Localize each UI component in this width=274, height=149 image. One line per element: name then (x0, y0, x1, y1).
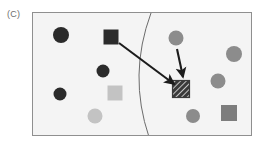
scene-box (32, 12, 252, 136)
gray-circle (226, 46, 242, 62)
figure-panel-c: (C) (0, 0, 274, 149)
shape-group-markers (53, 27, 242, 124)
panel-label: (C) (7, 10, 20, 19)
scene-graphic (33, 13, 252, 136)
dark-circle (54, 88, 67, 101)
gray-square (221, 105, 237, 121)
decision-boundary-curve (139, 13, 151, 136)
dark-circle (97, 65, 110, 78)
arrow-from-dark-square (119, 43, 174, 84)
gray-circle (169, 31, 184, 46)
dark-square (104, 30, 119, 45)
light-gray-square (108, 86, 123, 101)
arrow-from-gray-circle (177, 49, 183, 77)
dark-circle (53, 27, 69, 43)
gray-circle (211, 74, 226, 89)
arrow-group (119, 43, 183, 84)
light-gray-circle (88, 109, 103, 124)
gray-circle (186, 109, 200, 123)
hatched-query-square (173, 81, 190, 98)
